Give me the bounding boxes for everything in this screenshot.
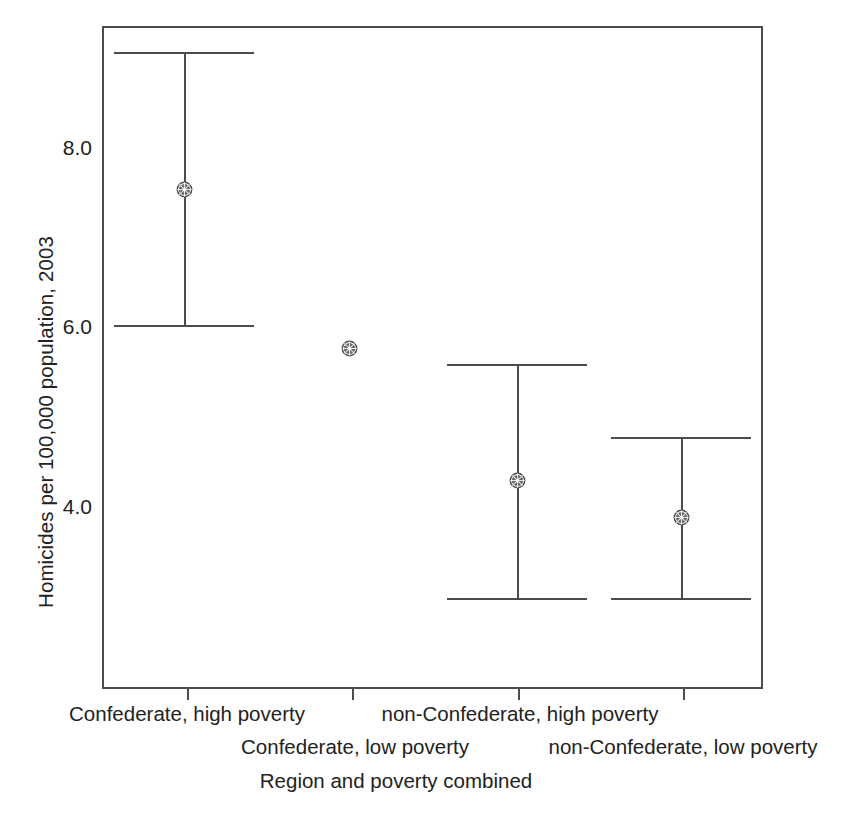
data-point-2 [341,340,358,357]
errorbar-1-lower-cap [114,325,254,327]
x-tick-label-confederate-low-poverty: Confederate, low poverty [241,735,469,759]
x-axis-title: Region and poverty combined [0,769,862,793]
y-axis-ticks: 8.0 6.0 4.0 [0,0,92,1]
chart-figure: Homicides per 100,000 population, 2003 8… [0,0,862,813]
x-tick-label-confederate-high-poverty: Confederate, high poverty [69,702,305,726]
y-tick-label-6: 6.0 [32,315,92,339]
x-tick-mark-2 [352,689,354,700]
data-point-4 [673,509,690,526]
errorbar-3-lower-cap [447,598,587,600]
errorbar-4-lower-cap [611,598,751,600]
y-tick-label-8: 8.0 [32,136,92,160]
data-point-1 [176,181,193,198]
x-axis-title-text: Region and poverty combined [260,769,532,793]
plot-area [102,26,763,689]
data-point-3 [509,472,526,489]
x-tick-mark-4 [683,689,685,700]
x-tick-label-non-confederate-high-poverty: non-Confederate, high poverty [382,702,659,726]
x-tick-mark-3 [518,689,520,700]
x-tick-label-non-confederate-low-poverty: non-Confederate, low poverty [549,735,818,759]
y-tick-label-4: 4.0 [32,495,92,519]
x-tick-mark-1 [187,689,189,700]
